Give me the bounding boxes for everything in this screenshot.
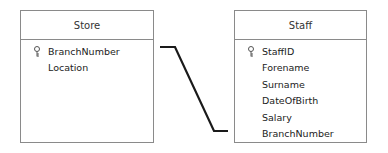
store-table[interactable]: Store BranchNumber Location [20, 10, 154, 143]
field-label: BranchNumber [262, 128, 334, 139]
field-staff-forename[interactable]: Forename [235, 60, 366, 77]
field-staff-surname[interactable]: Surname [235, 76, 366, 93]
field-staff-staffid[interactable]: StaffID [235, 43, 366, 60]
field-staff-dateofbirth[interactable]: DateOfBirth [235, 93, 366, 110]
field-store-branchnumber[interactable]: BranchNumber [21, 43, 153, 60]
field-label: Forename [262, 62, 309, 73]
field-label: Surname [262, 79, 305, 90]
field-label: StaffID [262, 46, 294, 57]
field-label: Salary [262, 112, 292, 123]
field-label: Location [48, 62, 88, 73]
field-label: DateOfBirth [262, 95, 318, 106]
field-label: BranchNumber [48, 46, 120, 57]
staff-table-title: Staff [235, 11, 366, 40]
field-staff-branchnumber[interactable]: BranchNumber [235, 126, 366, 143]
field-store-location[interactable]: Location [21, 60, 153, 77]
staff-table[interactable]: Staff StaffID Forename Surname DateOfBir… [234, 10, 367, 143]
field-staff-salary[interactable]: Salary [235, 109, 366, 126]
key-icon [244, 46, 258, 57]
store-table-title: Store [21, 11, 153, 40]
key-icon [30, 46, 44, 57]
